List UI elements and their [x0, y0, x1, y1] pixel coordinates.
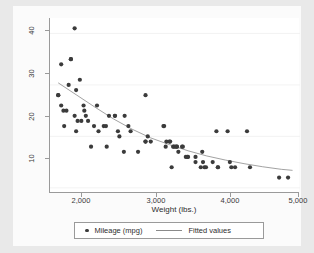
scatter-point — [149, 139, 153, 143]
scatter-point — [136, 150, 140, 154]
graph-region: 40 30 20 10 2,000 3,000 4,000 5,000 Weig… — [13, 6, 301, 246]
chart-legend: Mileage (mpg) Fitted values — [74, 222, 264, 239]
scatter-point — [277, 175, 281, 179]
scatter-point — [59, 103, 63, 107]
scatter-point — [78, 78, 82, 82]
scatter-point — [201, 160, 205, 164]
legend-entry-mileage: Mileage (mpg) — [75, 223, 142, 238]
y-tick-label-10: 10 — [27, 148, 36, 170]
y-tick-label-20: 20 — [27, 106, 36, 128]
scatter-point — [104, 124, 108, 128]
scatter-point — [123, 114, 127, 118]
plot-canvas — [50, 18, 300, 193]
scatter-point — [126, 124, 130, 128]
scatter-point — [59, 62, 63, 66]
scatter-point — [170, 165, 174, 169]
scatter-point — [84, 114, 88, 118]
scatter-point — [67, 83, 71, 87]
scatter-point — [200, 150, 204, 154]
scatter-point — [76, 119, 80, 123]
x-tick-label-5000: 5,000 — [278, 196, 314, 205]
legend-label-mileage: Mileage (mpg) — [95, 226, 143, 235]
scatter-point — [162, 124, 166, 128]
scatter-point — [96, 129, 100, 133]
x-tick-label-2000: 2,000 — [61, 196, 101, 205]
scatter-point — [248, 165, 252, 169]
scatter-point — [143, 139, 147, 143]
scatter-point — [168, 139, 172, 143]
scatter-point — [226, 129, 230, 133]
scatter-point — [233, 165, 237, 169]
scatter-point — [216, 165, 220, 169]
chart-screenshot: 40 30 20 10 2,000 3,000 4,000 5,000 Weig… — [0, 0, 314, 253]
scatter-point — [74, 129, 78, 133]
scatter-point — [95, 103, 99, 107]
scatter-point — [229, 165, 233, 169]
scatter-point — [74, 88, 78, 92]
y-tick-label-40: 40 — [27, 20, 36, 42]
scatter-point — [164, 145, 168, 149]
scatter-point — [143, 93, 147, 97]
x-axis-title: Weight (lbs.) — [49, 205, 299, 214]
scatter-point — [193, 155, 197, 159]
scatter-point — [286, 175, 290, 179]
scatter-point — [92, 124, 96, 128]
scatter-point — [107, 114, 111, 118]
scatter-point — [211, 160, 215, 164]
scatter-point — [175, 145, 179, 149]
scatter-point — [204, 165, 208, 169]
scatter-point — [228, 160, 232, 164]
scatter-point — [79, 119, 83, 123]
scatter-point — [193, 160, 197, 164]
scatter-point — [113, 114, 117, 118]
scatter-point — [64, 109, 68, 113]
scatter-point — [245, 129, 249, 133]
scatter-point — [122, 150, 126, 154]
x-tick-label-3000: 3,000 — [136, 196, 176, 205]
scatter-point — [62, 124, 66, 128]
circle-marker-icon — [85, 229, 89, 233]
scatter-point — [176, 150, 180, 154]
scatter-point — [82, 109, 86, 113]
scatter-point — [129, 129, 133, 133]
legend-entry-fitted: Fitted values — [142, 223, 231, 238]
scatter-point — [214, 129, 218, 133]
scatter-point — [116, 129, 120, 133]
gridlines — [50, 33, 300, 187]
scatter-point — [146, 134, 150, 138]
scatter-point — [186, 155, 190, 159]
scatter-point — [89, 145, 93, 149]
y-tick-label-30: 30 — [27, 63, 36, 85]
scatter-markers — [56, 26, 290, 179]
scatter-point — [56, 93, 60, 97]
scatter-point — [117, 134, 121, 138]
legend-label-fitted: Fitted values — [188, 226, 231, 235]
scatter-point — [199, 165, 203, 169]
scatter-point — [73, 114, 77, 118]
scatter-point — [181, 145, 185, 149]
scatter-point — [69, 57, 73, 61]
scatter-point — [81, 103, 85, 107]
scatter-point — [86, 119, 90, 123]
scatter-point — [105, 145, 109, 149]
line-marker-icon — [156, 230, 182, 231]
scatter-point — [73, 26, 77, 30]
x-tick-label-4000: 4,000 — [210, 196, 250, 205]
plot-area — [49, 18, 299, 193]
